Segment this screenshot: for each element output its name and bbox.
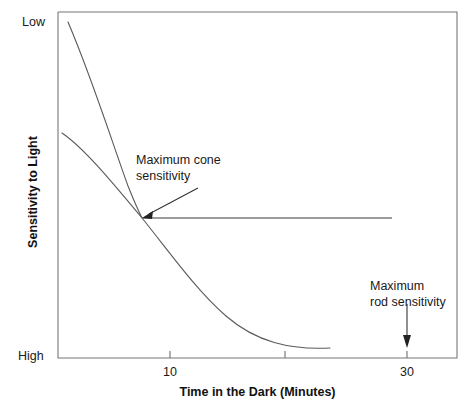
rod-annotation-arrow-head	[403, 335, 411, 348]
cone-curve	[68, 22, 142, 218]
dark-adaptation-chart: Low High 10 30 Sensitivity to Light Time…	[0, 0, 466, 406]
cone-annotation-arrow-head	[142, 211, 153, 219]
max-cone-sensitivity-annotation: Maximum cone sensitivity	[136, 153, 221, 184]
max-rod-sensitivity-annotation: Maximum rod sensitivity	[370, 279, 446, 310]
chart-plot-area	[0, 0, 466, 406]
x-axis-tick-label-10: 10	[163, 366, 177, 379]
y-axis-bottom-label: High	[18, 350, 44, 363]
x-axis-title: Time in the Dark (Minutes)	[58, 385, 457, 399]
cone-annotation-arrow-shaft	[149, 188, 198, 214]
x-axis-tick-label-30: 30	[400, 366, 414, 379]
y-axis-top-label: Low	[22, 16, 45, 29]
y-axis-title: Sensitivity to Light	[26, 112, 40, 272]
